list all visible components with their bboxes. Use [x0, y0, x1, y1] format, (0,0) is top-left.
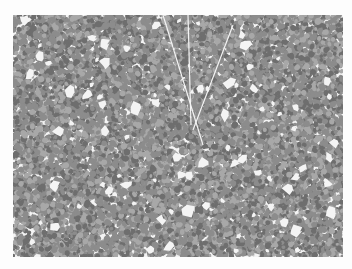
tissue-micrograph — [13, 15, 343, 257]
image-frame — [0, 0, 352, 269]
